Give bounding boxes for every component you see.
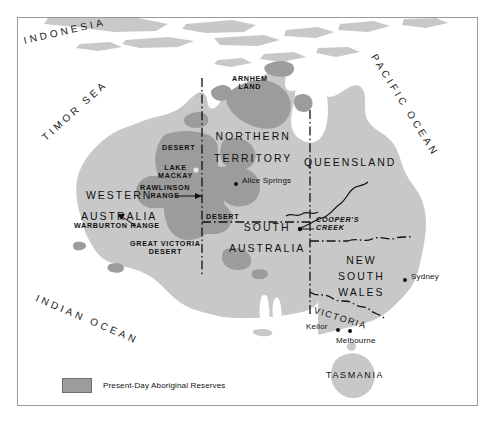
- indonesia-islands: [44, 18, 448, 67]
- alice-springs-dot: [234, 182, 238, 186]
- reserve-sa-small: [252, 269, 268, 279]
- map-root: INDONESIA TIMOR SEA PACIFIC OCEAN INDIAN…: [0, 0, 499, 428]
- coopers-creek-dot: [298, 227, 302, 231]
- cape-york-inlet: [325, 60, 336, 97]
- legend-label-aboriginal-reserves: Present-Day Aboriginal Reserves: [103, 381, 225, 390]
- sydney-dot: [403, 278, 407, 282]
- reserve-wa-small-1: [108, 263, 124, 273]
- australia-map-graphic: [18, 18, 477, 405]
- map-legend: Present-Day Aboriginal Reserves: [62, 378, 225, 393]
- legend-swatch-aboriginal-reserves: [62, 378, 92, 393]
- melbourne-dot: [348, 329, 352, 333]
- reserve-wa-small-2: [73, 242, 86, 251]
- keilor-dot: [336, 328, 340, 332]
- map-frame: INDONESIA TIMOR SEA PACIFIC OCEAN INDIAN…: [17, 17, 478, 406]
- lake-mackay-marker: [193, 167, 198, 172]
- reserve-arnhem-west: [211, 85, 232, 101]
